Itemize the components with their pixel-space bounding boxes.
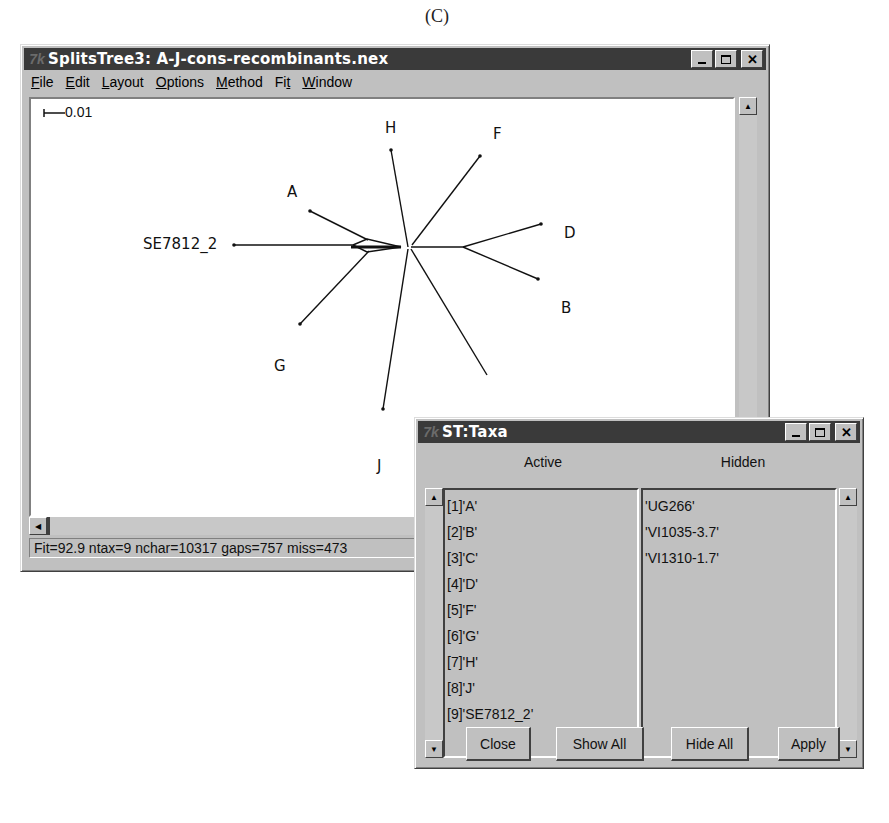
close-icon: ✕ (841, 426, 852, 439)
splitstree-app-icon[interactable]: 7k (26, 51, 48, 67)
minimize-icon (792, 435, 800, 437)
minimize-button[interactable] (785, 423, 807, 441)
hidden-column-header: Hidden (643, 454, 843, 470)
menu-method[interactable]: Method (210, 74, 269, 90)
active-taxon-item[interactable]: [4]'D' (447, 571, 635, 597)
menu-file[interactable]: File (25, 74, 60, 90)
taxon-label-a[interactable]: A (287, 183, 297, 201)
taxa-dialog: 7k ST:Taxa ✕ Active Hidden ▲ ▼ [1]'A' [2… (414, 417, 864, 769)
scroll-up-button[interactable]: ▲ (739, 97, 757, 115)
close-button[interactable]: ✕ (741, 50, 763, 68)
menu-window[interactable]: Window (296, 74, 358, 90)
taxon-label-b[interactable]: B (561, 299, 571, 317)
taxa-dialog-title: ST:Taxa (442, 423, 508, 441)
taxa-dialog-title-bar[interactable]: 7k ST:Taxa ✕ (418, 421, 860, 443)
close-dialog-button[interactable]: Close (466, 727, 531, 761)
minimize-button[interactable] (691, 50, 713, 68)
maximize-icon (721, 55, 731, 64)
scroll-up-button[interactable]: ▲ (839, 488, 857, 506)
taxon-label-j[interactable]: J (377, 457, 381, 475)
hide-all-button[interactable]: Hide All (671, 727, 749, 761)
active-taxon-item[interactable]: [8]'J' (447, 675, 635, 701)
active-list-scrollbar[interactable]: ▲ ▼ (425, 488, 443, 758)
maximize-button[interactable] (809, 423, 831, 441)
active-taxon-item[interactable]: [7]'H' (447, 649, 635, 675)
menu-options[interactable]: Options (150, 74, 210, 90)
maximize-button[interactable] (715, 50, 737, 68)
scroll-down-button[interactable]: ▼ (425, 740, 443, 758)
active-taxon-item[interactable]: [1]'A' (447, 493, 635, 519)
menu-edit[interactable]: Edit (60, 74, 96, 90)
menu-fit[interactable]: Fit (269, 74, 297, 90)
scroll-up-button[interactable]: ▲ (425, 488, 443, 506)
apply-button[interactable]: Apply (778, 727, 840, 761)
main-window-title: SplitsTree3: A-J-cons-recombinants.nex (48, 50, 388, 68)
hidden-taxon-item[interactable]: 'UG266' (645, 493, 833, 519)
active-taxon-item[interactable]: [2]'B' (447, 519, 635, 545)
close-icon: ✕ (747, 53, 758, 66)
hidden-taxa-list[interactable]: 'UG266' 'VI1035-3.7' 'VI1310-1.7' (641, 488, 837, 758)
figure-label: (C) (425, 6, 449, 27)
active-taxa-list[interactable]: [1]'A' [2]'B' [3]'C' [4]'D' [5]'F' [6]'G… (443, 488, 639, 758)
main-title-bar[interactable]: 7k SplitsTree3: A-J-cons-recombinants.ne… (24, 48, 766, 70)
taxon-label-g[interactable]: G (274, 357, 286, 375)
hidden-taxon-item[interactable]: 'VI1035-3.7' (645, 519, 833, 545)
taxon-label-f[interactable]: F (493, 125, 502, 143)
hidden-taxon-item[interactable]: 'VI1310-1.7' (645, 545, 833, 571)
show-all-button[interactable]: Show All (556, 727, 644, 761)
active-taxon-item[interactable]: [5]'F' (447, 597, 635, 623)
active-taxon-item[interactable]: [9]'SE7812_2' (447, 701, 635, 727)
active-taxon-item[interactable]: [6]'G' (447, 623, 635, 649)
maximize-icon (815, 428, 825, 437)
menu-bar: File Edit Layout Options Method Fit Wind… (25, 71, 358, 93)
scroll-left-button[interactable]: ◀ (29, 517, 47, 535)
hidden-list-scrollbar[interactable]: ▲ ▼ (839, 488, 857, 758)
taxon-label-se7812-2[interactable]: SE7812_2 (143, 235, 217, 253)
horizontal-scroll-thumb[interactable] (47, 517, 50, 535)
minimize-icon (698, 62, 706, 64)
scroll-down-button[interactable]: ▼ (839, 740, 857, 758)
scale-bar-label: 0.01 (65, 104, 92, 120)
close-button[interactable]: ✕ (835, 423, 857, 441)
active-column-header: Active (443, 454, 643, 470)
splitstree-app-icon[interactable]: 7k (420, 424, 442, 440)
scale-bar (44, 109, 65, 117)
taxon-label-h[interactable]: H (385, 119, 396, 137)
active-taxon-item[interactable]: [3]'C' (447, 545, 635, 571)
taxon-label-d[interactable]: D (564, 224, 576, 242)
menu-layout[interactable]: Layout (96, 74, 150, 90)
